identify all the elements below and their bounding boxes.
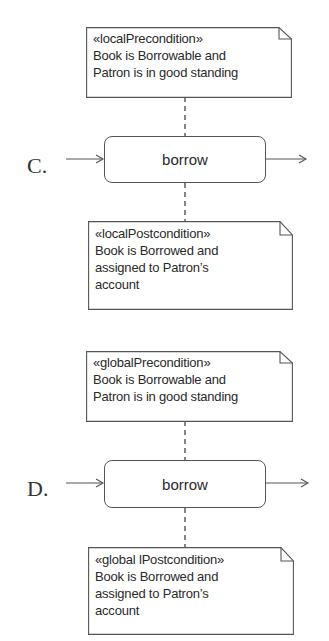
note-line: Book is Borrowable and xyxy=(93,47,238,64)
note-stereotype: «localPrecondition» xyxy=(93,30,238,47)
note-stereotype: «global lPostcondition» xyxy=(95,551,224,568)
action-node-d: borrow xyxy=(104,460,266,508)
precondition-note-c: «localPrecondition» Book is Borrowable a… xyxy=(86,27,292,98)
note-line: Patron is in good standing xyxy=(93,388,238,405)
action-name: borrow xyxy=(162,151,208,168)
option-label-d: D. xyxy=(27,476,48,502)
note-line: Patron is in good standing xyxy=(93,64,238,81)
option-label-c: C. xyxy=(27,153,47,179)
note-line: Book is Borrowed and xyxy=(95,568,224,585)
note-stereotype: «globalPrecondition» xyxy=(93,354,238,371)
postcondition-note-c: «localPostcondition» Book is Borrowed an… xyxy=(88,221,293,310)
action-node-c: borrow xyxy=(104,136,266,183)
note-stereotype: «localPostcondition» xyxy=(95,225,218,242)
precondition-note-d: «globalPrecondition» Book is Borrowable … xyxy=(86,351,293,422)
action-name: borrow xyxy=(162,476,208,493)
note-line: account xyxy=(95,602,224,619)
note-line: Book is Borrowed and xyxy=(95,242,218,259)
note-line: account xyxy=(95,276,218,293)
note-line: Book is Borrowable and xyxy=(93,371,238,388)
note-line: assigned to Patron’s xyxy=(95,259,218,276)
note-line: assigned to Patron’s xyxy=(95,585,224,602)
postcondition-note-d: «global lPostcondition» Book is Borrowed… xyxy=(88,547,294,635)
